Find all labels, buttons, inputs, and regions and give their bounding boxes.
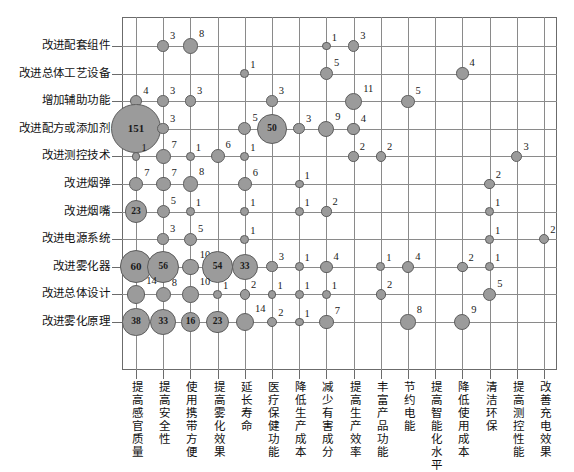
y-axis-tick: [112, 101, 122, 102]
y-axis-tick: [112, 322, 122, 323]
data-point-bubble[interactable]: [268, 290, 277, 299]
y-axis-tick: [112, 212, 122, 213]
data-point-bubble[interactable]: [127, 285, 146, 304]
x-axis-label: 提高测控性能: [511, 381, 524, 471]
bubble-value: 9: [335, 112, 340, 123]
bubble-value: 1: [305, 171, 310, 182]
data-point-bubble[interactable]: [295, 318, 304, 327]
x-axis-tick: [245, 370, 246, 379]
y-axis-label: 改进雾化原理: [42, 315, 110, 327]
bubble-value: 1: [277, 281, 282, 292]
x-axis-label: 医疗保健功能: [266, 381, 279, 471]
data-point-bubble[interactable]: [319, 315, 334, 330]
data-point-bubble[interactable]: [132, 152, 141, 161]
bubble-value: 16: [186, 317, 196, 327]
data-point-bubble[interactable]: [376, 151, 386, 161]
bubble-value: 4: [415, 252, 420, 263]
y-axis-label: 改进电源系统: [42, 232, 110, 244]
grid-line-vertical: [490, 17, 491, 370]
data-point-bubble[interactable]: [156, 177, 171, 192]
data-point-bubble[interactable]: [485, 207, 494, 216]
data-point-bubble[interactable]: [402, 261, 414, 273]
x-axis-tick: [435, 370, 436, 379]
data-point-bubble[interactable]: [484, 179, 494, 189]
bubble-value: 2: [333, 197, 338, 208]
data-point-bubble[interactable]: [182, 286, 199, 303]
grid-line-vertical: [517, 17, 518, 370]
data-point-bubble[interactable]: [456, 67, 468, 79]
data-point-bubble[interactable]: [266, 95, 277, 106]
data-point-bubble[interactable]: [345, 93, 362, 110]
data-point-bubble[interactable]: [295, 180, 304, 189]
data-point-bubble[interactable]: [184, 233, 197, 246]
data-point-bubble[interactable]: [320, 261, 332, 273]
x-axis-tick: [490, 370, 491, 379]
data-point-bubble[interactable]: [156, 287, 171, 302]
data-point-bubble[interactable]: [347, 123, 359, 135]
bubble-value: 5: [416, 86, 421, 97]
data-point-bubble[interactable]: [213, 290, 222, 299]
data-point-bubble[interactable]: [186, 207, 195, 216]
x-axis-label: 降低生产成本: [293, 381, 306, 471]
data-point-bubble[interactable]: [240, 235, 249, 244]
data-point-bubble[interactable]: 16: [181, 312, 201, 332]
bubble-value: 4: [143, 86, 148, 97]
data-point-bubble[interactable]: 38: [122, 308, 149, 335]
data-point-bubble[interactable]: 23: [125, 200, 147, 222]
data-point-bubble[interactable]: [295, 290, 304, 299]
bubble-value: 11: [363, 84, 373, 95]
data-point-bubble[interactable]: [240, 152, 249, 161]
y-axis-label: 改进配方或添加剂: [19, 122, 110, 134]
x-axis-tick: [381, 370, 382, 379]
bubble-value: 1: [223, 281, 228, 292]
x-axis-label: 提高安全性: [157, 381, 170, 471]
data-point-bubble[interactable]: [156, 149, 171, 164]
data-point-bubble[interactable]: 50: [257, 114, 288, 145]
bubble-value: 54: [213, 262, 223, 272]
data-point-bubble[interactable]: [185, 95, 196, 106]
data-point-bubble[interactable]: [183, 38, 198, 53]
data-point-bubble[interactable]: [238, 177, 252, 191]
data-point-bubble[interactable]: [295, 262, 304, 271]
bubble-value: 1: [250, 143, 255, 154]
data-point-bubble[interactable]: [295, 207, 304, 216]
data-point-bubble[interactable]: [182, 259, 199, 276]
x-axis-label: 提高生产效率: [348, 381, 361, 471]
data-point-bubble[interactable]: [157, 95, 168, 106]
bubble-value: 3: [170, 31, 175, 42]
data-point-bubble[interactable]: [485, 235, 494, 244]
bubble-value: 33: [158, 317, 168, 327]
bubble-value: 3: [170, 114, 175, 125]
data-point-bubble[interactable]: [211, 149, 225, 163]
x-axis-label: 改善充电效果: [538, 381, 551, 471]
data-point-bubble[interactable]: [266, 261, 277, 272]
y-axis-label: 改进测控技术: [42, 149, 110, 161]
x-axis-label: 提高智能化水平: [429, 381, 442, 471]
data-point-bubble[interactable]: 33: [150, 309, 176, 335]
data-point-bubble[interactable]: [321, 206, 331, 216]
data-point-bubble[interactable]: [157, 205, 170, 218]
data-point-bubble[interactable]: [376, 289, 386, 299]
bubble-value: 5: [171, 196, 176, 207]
data-point-bubble[interactable]: [400, 314, 415, 329]
data-point-bubble[interactable]: [348, 40, 359, 51]
data-point-bubble[interactable]: [322, 290, 331, 299]
data-point-bubble[interactable]: [157, 40, 168, 51]
data-point-bubble[interactable]: [322, 42, 331, 51]
bubble-value: 4: [470, 58, 475, 69]
bubble-value: 5: [497, 279, 502, 290]
data-point-bubble[interactable]: 151: [111, 104, 160, 153]
data-point-bubble[interactable]: [401, 95, 414, 108]
x-axis-label: 丰富产品功能: [375, 381, 388, 471]
data-point-bubble[interactable]: [186, 152, 195, 161]
data-point-bubble[interactable]: [348, 151, 358, 161]
data-point-bubble[interactable]: [457, 262, 467, 272]
data-point-bubble[interactable]: [240, 289, 250, 299]
bubble-value: 1: [495, 198, 500, 209]
data-point-bubble[interactable]: 23: [206, 311, 228, 333]
data-point-bubble[interactable]: [183, 176, 198, 191]
x-axis-label: 提高感官质量: [130, 381, 143, 471]
data-point-bubble[interactable]: [157, 233, 168, 244]
grid-line-horizontal: [122, 74, 557, 75]
data-point-bubble[interactable]: 33: [232, 254, 258, 280]
